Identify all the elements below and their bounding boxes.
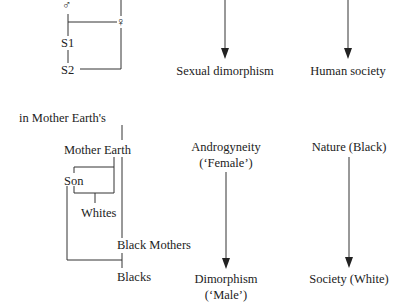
- son-label: Son: [64, 174, 83, 188]
- black-mothers-label: Black Mothers: [117, 238, 191, 252]
- nature-black-label: Nature (Black): [312, 140, 387, 154]
- society-white-label: Society (White): [309, 272, 389, 286]
- female-symbol: ♀: [116, 15, 125, 29]
- dimorphism-label: Dimorphism: [194, 272, 257, 286]
- male-quote-label: (‘Male’): [205, 288, 247, 302]
- female-quote-label: (‘Female’): [199, 156, 252, 170]
- whites-label: Whites: [81, 206, 116, 220]
- male-symbol: ♂: [62, 0, 71, 12]
- mother-earth-label: Mother Earth: [64, 143, 131, 157]
- s2-label: S2: [61, 63, 74, 77]
- human-society-label: Human society: [310, 64, 385, 78]
- mother-earth-caption: in Mother Earth's: [19, 111, 106, 125]
- s1-label: S1: [61, 36, 74, 50]
- androgyneity-label: Androgyneity: [191, 140, 260, 154]
- sexual-dimorphism-label: Sexual dimorphism: [176, 64, 274, 78]
- blacks-label: Blacks: [117, 270, 151, 284]
